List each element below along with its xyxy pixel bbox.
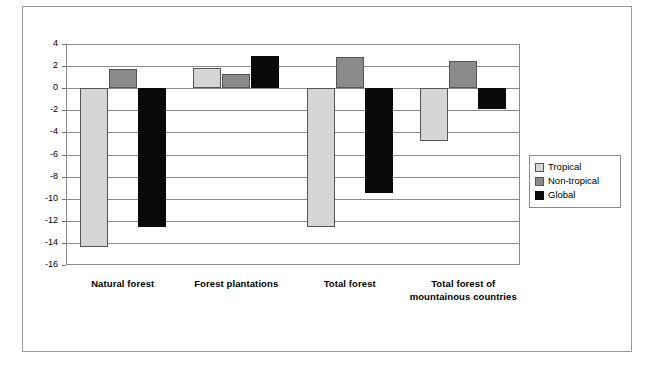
bar — [449, 61, 477, 89]
bar — [365, 88, 393, 193]
legend-swatch-icon — [535, 177, 544, 186]
y-axis-tick-mark — [62, 243, 66, 244]
x-axis-category-label: Natural forest — [62, 278, 184, 291]
gridline — [67, 88, 519, 89]
legend-item: Non-tropical — [535, 174, 615, 188]
gridline — [67, 221, 519, 222]
y-axis-tick-mark — [62, 199, 66, 200]
legend-swatch-icon — [535, 163, 544, 172]
y-axis-tick-mark — [62, 265, 66, 266]
bar — [109, 69, 137, 88]
bar — [420, 88, 448, 141]
y-axis-tick-label: 4 — [32, 39, 58, 48]
y-axis-tick-mark — [62, 66, 66, 67]
x-axis-category-label: Total forest — [289, 278, 411, 291]
legend-item: Global — [535, 188, 615, 202]
legend-swatch-icon — [535, 191, 544, 200]
gridline — [67, 132, 519, 133]
y-axis-tick-mark — [62, 132, 66, 133]
gridline — [67, 155, 519, 156]
legend-item-label: Non-tropical — [548, 176, 599, 186]
gridline — [67, 177, 519, 178]
y-axis-tick-mark — [62, 155, 66, 156]
y-axis-tick-mark — [62, 88, 66, 89]
bar — [80, 88, 108, 247]
x-axis-category-label: Forest plantations — [176, 278, 298, 291]
bar — [138, 88, 166, 227]
chart-legend: TropicalNon-tropicalGlobal — [529, 155, 621, 208]
y-axis-tick-mark — [62, 110, 66, 111]
y-axis-tick-label: 0 — [32, 83, 58, 92]
bar — [251, 56, 279, 88]
y-axis-tick-label: 2 — [32, 61, 58, 70]
legend-item: Tropical — [535, 160, 615, 174]
y-axis-tick-mark — [62, 44, 66, 45]
y-axis-tick-label: -10 — [32, 194, 58, 203]
y-axis-tick-label: -8 — [32, 172, 58, 181]
y-axis-tick-label: -14 — [32, 238, 58, 247]
y-axis-tick-mark — [62, 221, 66, 222]
y-axis-tick-label: -4 — [32, 127, 58, 136]
y-axis-tick-mark — [62, 177, 66, 178]
y-axis-tick-label: -2 — [32, 105, 58, 114]
bar — [478, 88, 506, 109]
legend-item-label: Tropical — [548, 162, 581, 172]
bar — [193, 68, 221, 88]
y-axis-tick-label: -12 — [32, 216, 58, 225]
x-axis-category-label: Total forest of mountainous countries — [403, 278, 525, 303]
gridline — [67, 243, 519, 244]
gridline — [67, 110, 519, 111]
legend-item-label: Global — [548, 190, 575, 200]
chart-figure: mlo. ha yr-1 420-2-4-6-8-10-12-14-16 Nat… — [0, 0, 653, 370]
bar — [336, 57, 364, 88]
gridline — [67, 199, 519, 200]
bar — [307, 88, 335, 227]
bar — [222, 74, 250, 88]
y-axis-tick-label: -16 — [32, 260, 58, 269]
y-axis-tick-label: -6 — [32, 150, 58, 159]
